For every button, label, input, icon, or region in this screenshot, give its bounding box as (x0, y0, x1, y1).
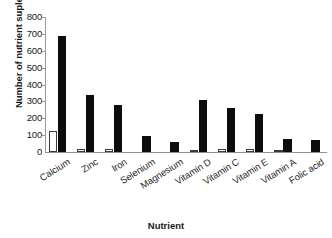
y-tick-mark (42, 135, 45, 136)
y-tick-mark (42, 118, 45, 119)
y-axis-tick-labels: 0100200300400500600700800 (14, 11, 42, 157)
plot-area (45, 17, 327, 152)
y-tick-label: 300 (14, 96, 42, 106)
y-tick-label: 600 (14, 46, 42, 56)
bar-group (274, 17, 292, 152)
x-axis-tick-labels: CalciumZincIronSeleniumMagnesiumVitamin … (45, 152, 332, 218)
bars-layer (45, 17, 327, 152)
bar-filled (114, 105, 123, 152)
bar-filled (255, 114, 264, 152)
y-tick-mark (42, 68, 45, 69)
y-tick-label: 800 (14, 12, 42, 22)
y-tick-mark (42, 17, 45, 18)
bar-chart: Number of nutrient suplement 01002003004… (0, 0, 332, 238)
bar-filled (199, 100, 208, 152)
bar-group (246, 17, 264, 152)
y-tick-mark (42, 51, 45, 52)
bar-filled (283, 139, 292, 153)
y-tick-label: 200 (14, 113, 42, 123)
bar-group (218, 17, 236, 152)
y-tick-mark (42, 101, 45, 102)
bar-group (190, 17, 208, 152)
y-tick-label: 0 (14, 147, 42, 157)
y-tick-mark (42, 85, 45, 86)
bar-open (49, 131, 58, 152)
y-tick-label: 700 (14, 29, 42, 39)
bar-filled (142, 136, 151, 152)
bar-filled (227, 108, 236, 152)
y-tick-mark (42, 34, 45, 35)
y-tick-label: 500 (14, 63, 42, 73)
bar-filled (311, 140, 320, 152)
bar-group (105, 17, 123, 152)
bar-filled (86, 95, 95, 152)
bar-filled (170, 142, 179, 152)
x-axis-title: Nutrient (0, 220, 332, 231)
bar-group (161, 17, 179, 152)
y-tick-label: 400 (14, 80, 42, 90)
bar-filled (58, 36, 67, 152)
bar-group (49, 17, 67, 152)
bar-group (302, 17, 320, 152)
y-tick-label: 100 (14, 130, 42, 140)
bar-group (133, 17, 151, 152)
bar-group (77, 17, 95, 152)
